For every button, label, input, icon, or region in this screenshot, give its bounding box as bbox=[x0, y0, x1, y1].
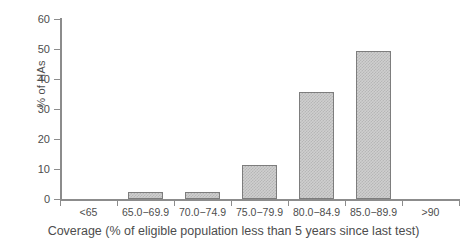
bar-80-0-84-9 bbox=[299, 92, 334, 199]
y-tick-label-10: 10 bbox=[16, 163, 50, 175]
x-tick-label-70-0-74-9: 70.0−74.9 bbox=[174, 206, 231, 218]
y-tick-10 bbox=[54, 169, 61, 170]
x-tick-boundary-7 bbox=[459, 200, 460, 206]
x-axis-line bbox=[60, 199, 460, 201]
x-tick-label-65-0-69-9: 65.0−69.9 bbox=[117, 206, 174, 218]
bar-65-0-69-9 bbox=[128, 192, 163, 199]
y-tick-40 bbox=[54, 79, 61, 80]
y-tick-label-0: 0 bbox=[16, 193, 50, 205]
y-tick-label-30: 30 bbox=[16, 103, 50, 115]
bar-70-0-74-9 bbox=[185, 192, 220, 199]
x-axis-title: Coverage (% of eligible population less … bbox=[0, 224, 467, 238]
y-tick-50 bbox=[54, 49, 61, 50]
bar-chart-figure: % of HAs 0 10 20 30 40 50 60 <65 65.0−69… bbox=[0, 0, 467, 250]
y-tick-label-20: 20 bbox=[16, 133, 50, 145]
x-tick-label-lt65: <65 bbox=[60, 206, 117, 218]
y-tick-30 bbox=[54, 109, 61, 110]
y-tick-20 bbox=[54, 139, 61, 140]
bar-75-0-79-9 bbox=[242, 165, 277, 199]
x-tick-label-85-0-89-9: 85.0−89.9 bbox=[345, 206, 402, 218]
x-tick-label-gt90: >90 bbox=[402, 206, 459, 218]
y-tick-label-60: 60 bbox=[16, 13, 50, 25]
y-tick-label-50: 50 bbox=[16, 43, 50, 55]
y-tick-60 bbox=[54, 19, 61, 20]
bar-85-0-89-9 bbox=[356, 51, 391, 199]
x-tick-label-75-0-79-9: 75.0−79.9 bbox=[231, 206, 288, 218]
x-tick-label-80-0-84-9: 80.0−84.9 bbox=[288, 206, 345, 218]
y-tick-label-40: 40 bbox=[16, 73, 50, 85]
